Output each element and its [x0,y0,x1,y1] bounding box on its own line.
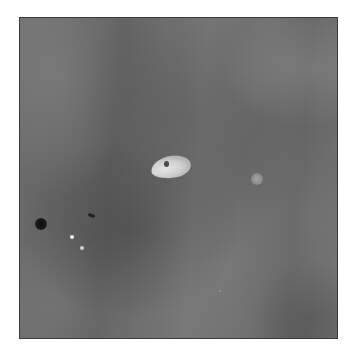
tissue-streaks [20,18,337,338]
clipped-caption-text [20,0,340,4]
bright-speck [80,246,84,250]
bright-speck [70,235,74,239]
lesion-dark-core [164,161,169,167]
dark-round-spot [35,218,47,230]
small-faint-blob [251,173,263,185]
faint-speck [219,290,221,292]
radiograph-image [19,17,338,339]
